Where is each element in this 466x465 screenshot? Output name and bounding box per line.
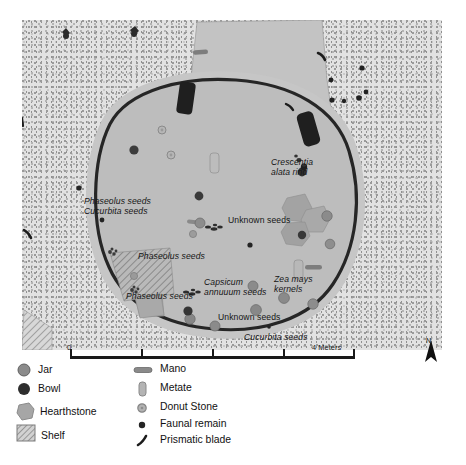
map-label-cucurbita-1: Cucurbita seeds	[84, 206, 148, 216]
legend-label-hearthstone: Hearthstone	[40, 406, 97, 417]
donut-stone-symbol-icon	[136, 402, 148, 414]
metate-symbol-icon	[136, 380, 148, 398]
faunal-remain-symbol-icon	[136, 419, 148, 431]
scale-tick	[212, 349, 214, 359]
mano-symbol-icon	[132, 364, 154, 376]
prismatic-blade-symbol-icon	[135, 434, 149, 448]
legend-label-faunal-remain: Faunal remain	[160, 418, 226, 429]
map-label-crescentia: Crescentia alata rind	[271, 158, 313, 177]
legend-label-donut-stone: Donut Stone	[160, 401, 218, 412]
map-label-phaseolus-2: Phaseolus seeds	[138, 251, 205, 261]
scale-tick	[283, 349, 285, 359]
shelf-symbol-icon	[16, 424, 36, 442]
legend-label-shelf: Shelf	[41, 430, 65, 441]
legend-label-metate: Metate	[160, 382, 192, 393]
map-label-phaseolus-1: Phaseolus seeds	[84, 196, 151, 206]
map-label-unknown-seeds-1: Unknown seeds	[228, 215, 290, 225]
map-label-capsicum: Capsicum annuuum seeds	[204, 278, 266, 297]
legend-label-bowl: Bowl	[38, 383, 61, 394]
map-label-zea-mays: Zea mays kernels	[274, 275, 313, 294]
scale-max-label: 4 Meters	[312, 343, 341, 352]
legend-label-prismatic-blade: Prismatic blade	[160, 434, 231, 445]
hearthstone-symbol-icon	[14, 400, 36, 422]
map-label-phaseolus-3: Phaseolus seeds	[126, 291, 193, 301]
legend-label-mano: Mano	[160, 363, 186, 374]
bowl-symbol-icon	[16, 381, 32, 397]
scale-tick	[70, 349, 72, 359]
map-label-unknown-seeds-2: Unknown seeds	[218, 312, 280, 322]
jar-symbol-icon	[16, 362, 32, 378]
map-label-cucurbita-2: Cucurbita seeds	[244, 332, 308, 342]
north-arrow-icon	[420, 338, 442, 368]
site-map-panel: Crescentia alata rind Phaseolus seeds Cu…	[22, 20, 442, 350]
legend-label-jar: Jar	[38, 364, 52, 375]
map-legend: Jar Bowl Hearthstone	[14, 362, 334, 448]
scale-tick	[353, 349, 355, 359]
scale-tick	[141, 349, 143, 359]
site-plan-svg	[22, 20, 442, 350]
map-vector-layer	[22, 20, 442, 350]
